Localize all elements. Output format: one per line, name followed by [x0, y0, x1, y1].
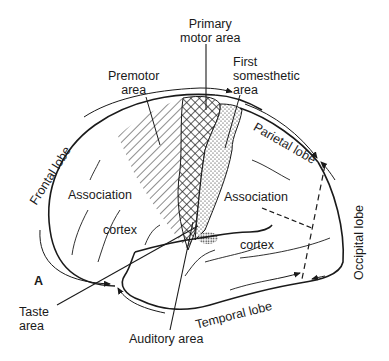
association-cortex-frontal-label-2: cortex	[103, 223, 137, 237]
occipital-lobe-label: Occipital lobe	[352, 205, 366, 280]
taste-label-line1: Taste	[19, 305, 49, 319]
premotor-label-line1: Premotor	[108, 69, 159, 83]
somesthetic-label-line2: somesthetic	[233, 69, 300, 83]
taste-label-line2: area	[19, 319, 49, 333]
brain-diagram: Primary motor area Premotor area First s…	[0, 0, 389, 361]
primary-motor-label-line2: motor area	[180, 31, 240, 45]
somesthetic-label-line1: First	[233, 55, 300, 69]
premotor-area-label: Premotor area	[108, 69, 159, 97]
association-cortex-frontal-label-1: Association	[68, 188, 132, 202]
first-somesthetic-area-label: First somesthetic area	[233, 55, 300, 97]
auditory-area-label: Auditory area	[129, 332, 203, 346]
somesthetic-label-line3: area	[233, 83, 300, 97]
primary-motor-area-label: Primary motor area	[180, 17, 240, 45]
association-cortex-posterior-label-1: Association	[224, 190, 288, 204]
panel-label: A	[34, 274, 43, 288]
taste-area-label: Taste area	[19, 305, 49, 333]
association-cortex-posterior-label-2: cortex	[240, 238, 274, 252]
brain-outline-drawing	[0, 0, 389, 361]
primary-motor-label-line1: Primary	[180, 17, 240, 31]
premotor-label-line2: area	[108, 83, 159, 97]
